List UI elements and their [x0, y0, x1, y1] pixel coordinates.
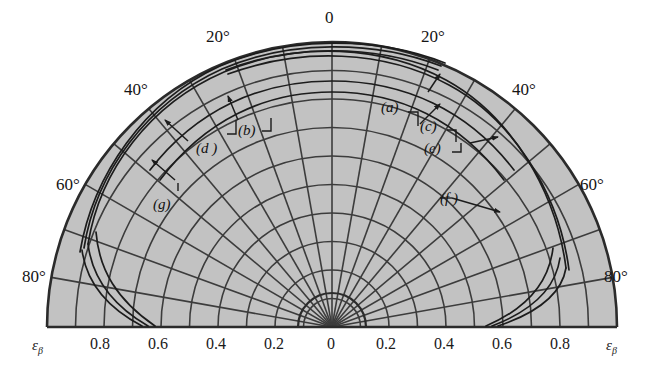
- curve-label-d: (d ): [196, 140, 217, 157]
- angle-label-left-80: 80°: [22, 267, 46, 287]
- angle-label-left-60: 60°: [56, 175, 80, 195]
- epsilon-beta-left: εβ: [32, 337, 43, 353]
- curve-label-g: (g): [153, 196, 171, 213]
- angle-label-right-40: 40°: [512, 80, 536, 100]
- curve-label-a: (a): [381, 99, 399, 116]
- curve-label-b: (b): [238, 122, 256, 139]
- curve-label-e: (e): [424, 140, 441, 157]
- angle-label-left-20: 20°: [206, 27, 230, 47]
- angle-label-right-60: 60°: [580, 175, 604, 195]
- epsilon-beta-right: εβ: [606, 337, 617, 353]
- curve-label-f: (f ): [440, 190, 458, 207]
- angle-label-top-0: 0: [325, 8, 334, 28]
- axis-tick-center-0: 0: [327, 335, 335, 353]
- angle-label-right-80: 80°: [604, 267, 628, 287]
- axis-tick-right-06: 0.6: [492, 335, 512, 353]
- curve-label-c: (c): [420, 118, 437, 135]
- polar-nomograph-figure: [0, 0, 655, 377]
- axis-tick-left-02: 0.2: [264, 335, 284, 353]
- axis-tick-left-06: 0.6: [148, 335, 168, 353]
- angle-label-left-40: 40°: [124, 80, 148, 100]
- axis-symbol-left: εβ: [32, 336, 43, 356]
- axis-tick-left-04: 0.4: [206, 335, 226, 353]
- angle-label-right-20: 20°: [421, 27, 445, 47]
- axis-symbol-right: εβ: [606, 336, 617, 356]
- axis-tick-left-08: 0.8: [90, 335, 110, 353]
- axis-tick-right-02: 0.2: [376, 335, 396, 353]
- axis-tick-right-04: 0.4: [434, 335, 454, 353]
- axis-tick-right-08: 0.8: [550, 335, 570, 353]
